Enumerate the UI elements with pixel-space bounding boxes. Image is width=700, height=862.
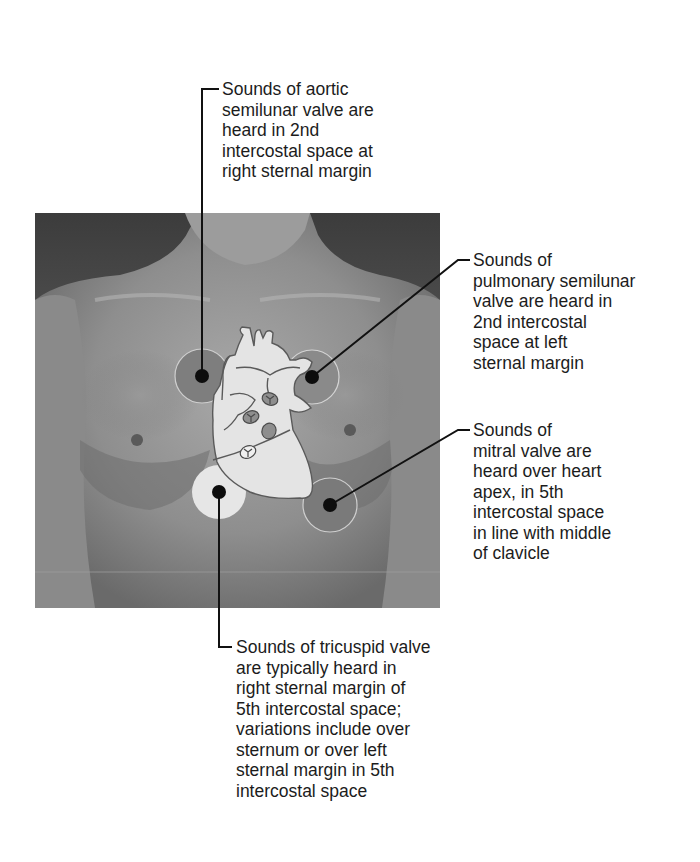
aortic-valve-label: Sounds of aortic semilunar valve are hea…: [222, 79, 374, 182]
mitral-dot: [323, 498, 337, 512]
pulmonary-valve-label: Sounds of pulmonary semilunar valve are …: [473, 250, 635, 373]
tricuspid-dot: [212, 485, 226, 499]
aortic-dot: [195, 369, 209, 383]
mitral-valve-label: Sounds of mitral valve are heard over he…: [473, 420, 611, 564]
tricuspid-valve-label: Sounds of tricuspid valve are typically …: [236, 637, 431, 801]
pulmonary-dot: [305, 370, 319, 384]
